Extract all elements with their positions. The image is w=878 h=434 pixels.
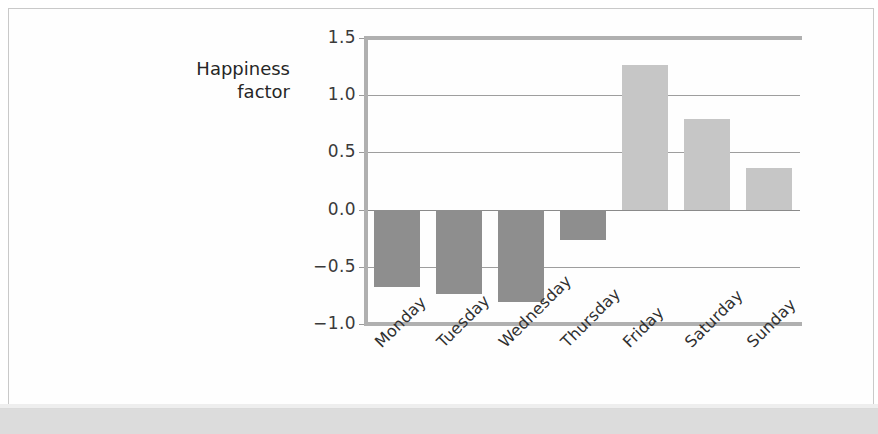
axis-left-spine — [364, 36, 368, 326]
y-tick-label: 0.5 — [312, 141, 356, 161]
bar-friday — [622, 65, 668, 209]
bar-monday — [374, 210, 420, 288]
axis-top-spine — [366, 36, 802, 40]
y-axis-title-line2: factor — [170, 80, 290, 103]
y-axis-title: Happiness factor — [170, 57, 290, 103]
y-axis-title-line1: Happiness — [170, 57, 290, 80]
x-tick-label-friday: Friday — [619, 303, 668, 352]
bar-wednesday — [498, 210, 544, 303]
bar-tuesday — [436, 210, 482, 295]
scanned-page: Happiness factor 1.51.00.50.0−0.5−1.0 Mo… — [0, 0, 878, 434]
y-tick-label: −1.0 — [312, 313, 356, 333]
y-axis-tick-labels: 1.51.00.50.0−0.5−1.0 — [300, 0, 356, 434]
x-tick-label-thursday: Thursday — [557, 284, 624, 351]
y-tick-label: −0.5 — [312, 256, 356, 276]
x-tick-label-saturday: Saturday — [681, 286, 747, 352]
bar-sunday — [746, 168, 792, 209]
gridline-1.0 — [366, 95, 800, 96]
gridline-0.5 — [366, 152, 800, 153]
y-tick-label: 1.5 — [312, 27, 356, 47]
gridline--0.5 — [366, 267, 800, 268]
bar-chart: Happiness factor 1.51.00.50.0−0.5−1.0 Mo… — [0, 0, 878, 434]
y-tick-label: 1.0 — [312, 84, 356, 104]
bar-thursday — [560, 210, 606, 241]
y-tick-label: 0.0 — [312, 199, 356, 219]
bar-saturday — [684, 119, 730, 209]
